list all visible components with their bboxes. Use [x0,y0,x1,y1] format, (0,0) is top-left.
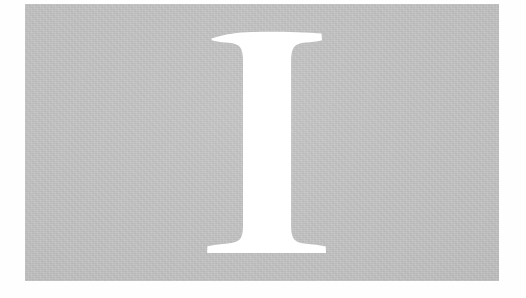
paper-grain-texture [25,4,499,281]
gray-plate [25,4,499,281]
plate-edge-soften [25,4,499,281]
scan-page [0,0,526,298]
plate-vignette [25,4,499,281]
